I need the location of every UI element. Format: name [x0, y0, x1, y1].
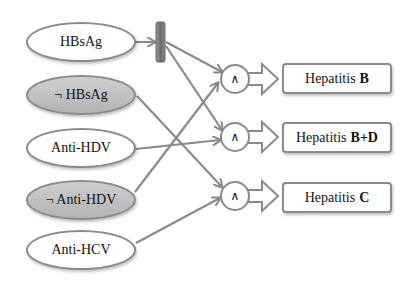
- output-label: Hepatitis: [296, 130, 347, 146]
- input-label: HBsAg: [60, 34, 102, 50]
- splitter-bar: [156, 22, 165, 62]
- input-not-anti-hdv: ¬ Anti-HDV: [26, 180, 136, 220]
- arrow-and2-out: [248, 122, 278, 152]
- and-icon: ∧: [231, 72, 240, 86]
- and-gate-2: ∧: [220, 122, 250, 152]
- output-hepatitis-c: HepatitisC: [282, 182, 392, 213]
- output-type: C: [359, 190, 369, 206]
- output-label: Hepatitis: [305, 71, 356, 87]
- arrow-and1-out: [248, 64, 278, 94]
- input-hbsag: HBsAg: [26, 22, 136, 62]
- input-label: Anti-HDV: [51, 140, 111, 156]
- input-anti-hcv: Anti-HCV: [26, 230, 136, 270]
- output-type: B: [360, 71, 369, 87]
- and-gate-3: ∧: [220, 181, 250, 211]
- output-type: B+D: [351, 130, 378, 146]
- and-gate-1: ∧: [220, 64, 250, 94]
- output-label: Hepatitis: [305, 190, 356, 206]
- input-not-hbsag: ¬ HBsAg: [26, 75, 136, 115]
- input-label: ¬ HBsAg: [54, 87, 107, 103]
- output-hepatitis-b: HepatitisB: [282, 63, 392, 94]
- diagram-canvas: HBsAg ¬ HBsAg Anti-HDV ¬ Anti-HDV Anti-H…: [0, 0, 413, 286]
- input-label: Anti-HCV: [51, 242, 110, 258]
- and-icon: ∧: [231, 189, 240, 203]
- output-hepatitis-bd: HepatitisB+D: [282, 122, 392, 153]
- arrow-and3-out: [248, 181, 278, 211]
- and-icon: ∧: [231, 130, 240, 144]
- edge-antihcv-and3: [136, 198, 220, 243]
- input-anti-hdv: Anti-HDV: [26, 128, 136, 168]
- edge-notantihdv-and1: [135, 83, 218, 192]
- input-label: ¬ Anti-HDV: [46, 192, 117, 208]
